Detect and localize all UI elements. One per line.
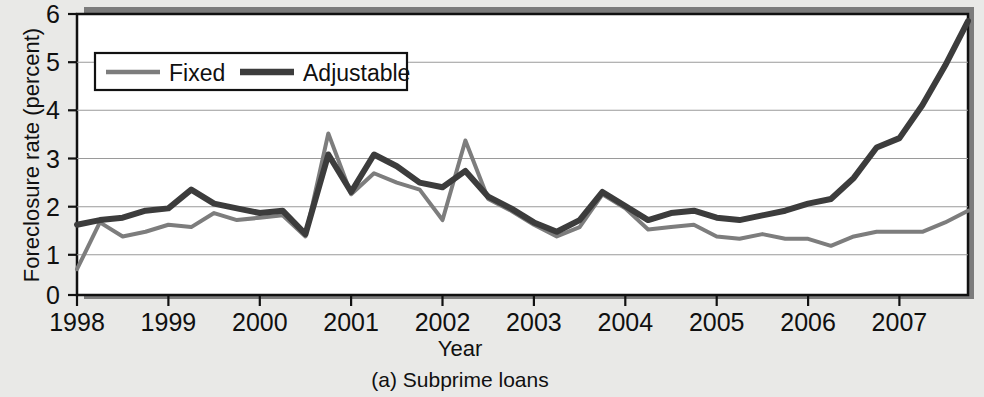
x-tick-label: 2003: [506, 308, 562, 336]
figure-subprime-loans: 6 5 4 3 2 1 0 1998 1999 2000 2001: [0, 0, 984, 397]
y-tick-label: 0: [46, 281, 60, 309]
x-tick-label: 2004: [597, 308, 653, 336]
legend-label-fixed: Fixed: [169, 60, 225, 86]
y-tick-label: 6: [46, 0, 60, 28]
y-tick-label: 5: [46, 48, 60, 76]
y-axis-title: Foreclosure rate (percent): [19, 28, 44, 282]
x-axis-title: Year: [438, 336, 482, 361]
x-tick-label: 1998: [49, 308, 105, 336]
x-tick-labels: 1998 1999 2000 2001 2002 2003 2004 2005 …: [49, 308, 927, 336]
x-tick-label: 1999: [141, 308, 197, 336]
foreclosure-rate-chart: 6 5 4 3 2 1 0 1998 1999 2000 2001: [0, 0, 984, 397]
y-tick-label: 4: [46, 96, 60, 124]
y-tick-label: 3: [46, 145, 60, 173]
x-tick-label: 2000: [232, 308, 288, 336]
x-tick-label: 2001: [323, 308, 379, 336]
legend-label-adjustable: Adjustable: [303, 60, 410, 86]
x-tick-label: 2007: [872, 308, 928, 336]
x-tick-label: 2002: [415, 308, 471, 336]
y-tick-label: 2: [46, 193, 60, 221]
x-tick-label: 2005: [689, 308, 745, 336]
y-tick-labels: 6 5 4 3 2 1 0: [46, 0, 60, 309]
x-tick-label: 2006: [780, 308, 836, 336]
figure-caption: (a) Subprime loans: [371, 368, 548, 391]
chart-legend: Fixed Adjustable: [95, 53, 410, 90]
y-tick-label: 1: [46, 241, 60, 269]
y-axis-ticks: [68, 14, 77, 295]
